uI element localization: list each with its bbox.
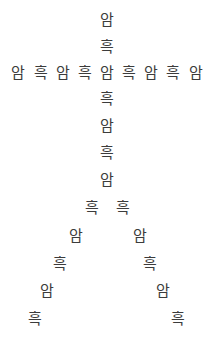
glyph-stem-lower-0: 흑 [100,92,114,107]
glyph-stem-lower-1: 암 [100,119,114,134]
glyph-branch-right-2: 흑 [143,257,157,272]
glyph-crossbar-8: 암 [189,66,203,81]
glyph-branch-right-4: 흑 [171,312,185,327]
glyph-branch-left-4: 흑 [28,312,42,327]
glyph-crossbar-4: 암 [100,66,114,81]
glyph-stem-lower-3: 암 [100,173,114,188]
glyph-branch-right-0: 흑 [116,201,130,216]
glyph-branch-left-3: 암 [40,284,54,299]
glyph-crossbar-3: 흑 [78,66,92,81]
glyph-crossbar-0: 암 [11,66,25,81]
glyph-branch-left-2: 흑 [53,257,67,272]
glyph-stem-upper-1: 흑 [100,40,114,55]
glyph-crossbar-2: 암 [56,66,70,81]
glyph-stem-upper-0: 암 [100,13,114,28]
glyph-branch-left-0: 흑 [85,201,99,216]
glyph-crossbar-6: 암 [144,66,158,81]
glyph-crossbar-1: 흑 [34,66,48,81]
glyph-crossbar-5: 흑 [122,66,136,81]
glyph-branch-right-1: 암 [133,229,147,244]
glyph-branch-right-3: 암 [156,284,170,299]
glyph-branch-left-1: 암 [69,229,83,244]
character-pattern-canvas: 암흑암흑암흑암흑암흑암흑암흑암흑암흑암흑흑암흑암흑 [0,0,214,349]
glyph-stem-lower-2: 흑 [100,146,114,161]
glyph-crossbar-7: 흑 [166,66,180,81]
